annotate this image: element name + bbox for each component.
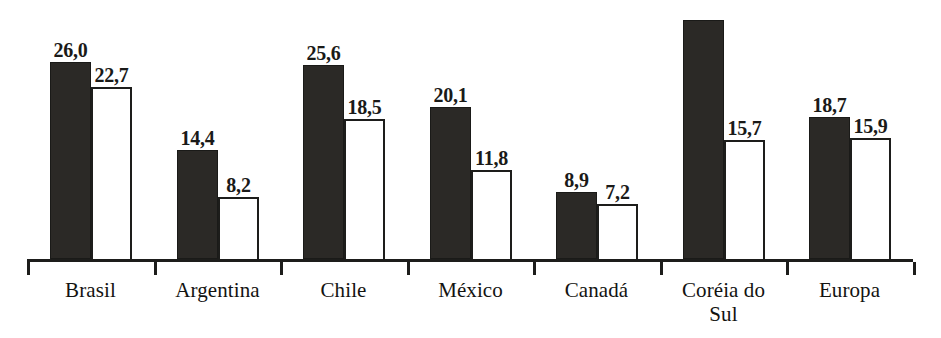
axis-tick [913, 262, 916, 275]
x-axis-baseline [27, 259, 913, 262]
bar-value-label: 11,8 [471, 148, 512, 168]
bar-dark [50, 62, 91, 259]
bar-value-label: 18,5 [344, 97, 385, 117]
axis-tick [533, 262, 536, 275]
bar-value-label: 8,9 [556, 170, 597, 190]
bar-dark [683, 20, 724, 259]
category-label: Coréia do Sul [660, 279, 787, 326]
bar-value-label: 26,0 [50, 40, 91, 60]
axis-tick [786, 262, 789, 275]
bar-dark [430, 107, 471, 259]
bar-light [597, 204, 638, 259]
bar-dark [809, 117, 850, 259]
bar-light [724, 140, 765, 259]
axis-tick [154, 262, 157, 275]
bar-value-label: 15,9 [850, 116, 891, 136]
category-label: Canadá [533, 279, 660, 303]
bar-light [218, 197, 259, 259]
bar-light [91, 87, 132, 259]
bar-value-label: 18,7 [809, 95, 850, 115]
bar-value-label: 8,2 [218, 175, 259, 195]
bar-light [850, 138, 891, 259]
bar-value-label: 22,7 [91, 65, 132, 85]
category-label: Argentina [154, 279, 281, 303]
bar-value-label: 15,7 [724, 118, 765, 138]
bar-dark [556, 192, 597, 259]
bar-chart: 26,022,714,48,225,618,520,111,88,97,215,… [0, 0, 941, 338]
bar-dark [177, 150, 218, 259]
bar-light [471, 170, 512, 259]
category-label: México [407, 279, 534, 303]
category-label: Europa [786, 279, 913, 303]
category-label: Brasil [27, 279, 154, 303]
axis-tick [280, 262, 283, 275]
axis-tick [27, 262, 30, 275]
bar-light [344, 119, 385, 259]
bar-value-label: 7,2 [597, 182, 638, 202]
bar-value-label: 14,4 [177, 128, 218, 148]
bar-value-label: 20,1 [430, 85, 471, 105]
category-label: Chile [280, 279, 407, 303]
bar-dark [303, 65, 344, 259]
axis-tick [407, 262, 410, 275]
bar-value-label: 25,6 [303, 43, 344, 63]
axis-tick [660, 262, 663, 275]
